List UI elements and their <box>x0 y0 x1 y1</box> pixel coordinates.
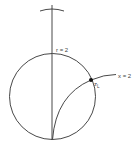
load-point-dot <box>89 78 93 82</box>
x-arc-label: x = 2 <box>118 73 132 79</box>
smith-chart-diagram: r = 2 x = 2 zL <box>0 0 138 150</box>
r-2-circle <box>10 54 96 140</box>
x-2-arc <box>53 75 117 140</box>
load-point-label-subscript: L <box>97 84 100 89</box>
r-circle-label: r = 2 <box>56 47 69 53</box>
